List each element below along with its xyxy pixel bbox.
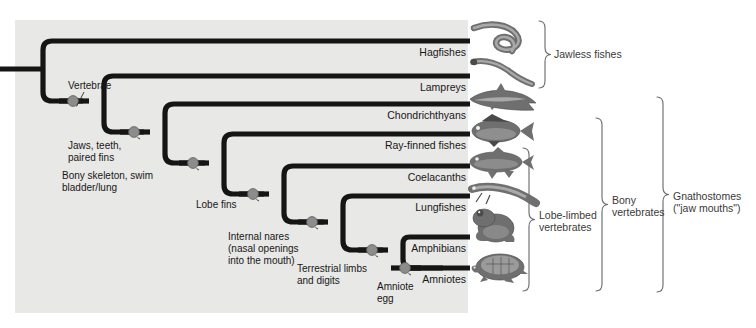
taxon-label-hagfishes: Hagfishes <box>300 46 466 58</box>
trait-label-lobe-fins: Lobe fins <box>196 199 237 211</box>
taxon-label-coelacanths: Coelacanths <box>300 171 466 183</box>
taxon-label-amphibians: Amphibians <box>300 242 466 254</box>
trait-label-internal-nares: Internal nares (nasal openings into the … <box>228 231 299 266</box>
bracket-label-lobe-limbed: Lobe-limbed vertebrates <box>539 209 597 234</box>
taxon-label-lungfishes: Lungfishes <box>300 201 466 213</box>
trait-label-amniote-egg: Amniote egg <box>377 281 414 305</box>
phylogenetic-tree-figure: HagfishesLampreysChondrichthyansRay-finn… <box>0 0 756 328</box>
trait-label-bony-skeleton: Bony skeleton, swim bladder/lung <box>62 170 153 194</box>
taxon-label-rayfinned: Ray-finned fishes <box>300 139 466 151</box>
taxon-label-lampreys: Lampreys <box>300 81 466 93</box>
bracket-label-bony-vertebrates: Bony vertebrates <box>612 194 665 219</box>
bracket-label-jawless-fishes: Jawless fishes <box>554 48 622 60</box>
bracket-label-gnathostomes: Gnathostomes ("jaw mouths") <box>673 190 741 215</box>
trait-label-vertebrae: Vertebrae <box>68 80 111 92</box>
taxon-label-chondrichthyans: Chondrichthyans <box>300 109 466 121</box>
trait-label-jaws: Jaws, teeth, paired fins <box>68 140 121 164</box>
trait-label-terrestrial: Terrestrial limbs and digits <box>297 263 367 287</box>
